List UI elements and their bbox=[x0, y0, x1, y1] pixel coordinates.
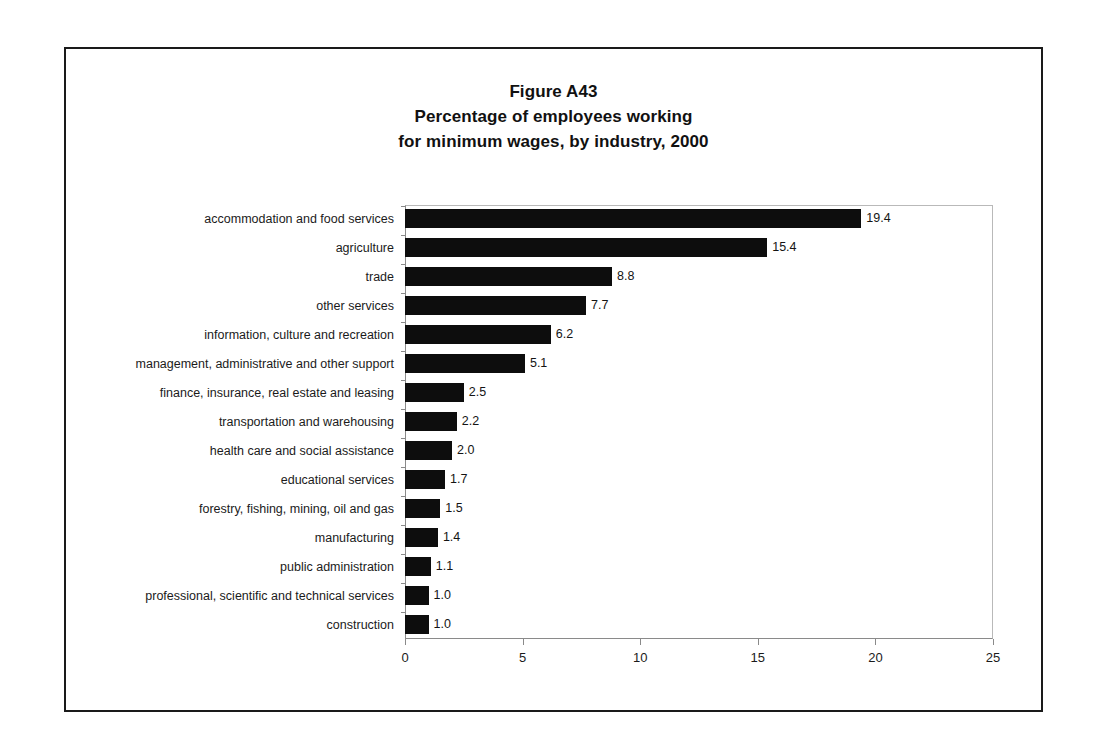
bar-value-label: 6.2 bbox=[551, 325, 573, 344]
category-label: forestry, fishing, mining, oil and gas bbox=[199, 495, 394, 524]
category-label: professional, scientific and technical s… bbox=[145, 582, 394, 611]
bar-value-label: 5.1 bbox=[525, 354, 547, 373]
x-axis-tick bbox=[993, 639, 994, 645]
bar-row: 2.2 bbox=[405, 408, 993, 437]
bar-value-label: 1.0 bbox=[429, 615, 451, 634]
x-axis-tick-label: 15 bbox=[751, 650, 765, 665]
category-label: transportation and warehousing bbox=[219, 408, 394, 437]
bar-row: 8.8 bbox=[405, 263, 993, 292]
bar-value-label: 2.5 bbox=[464, 383, 486, 402]
category-axis-labels: accommodation and food servicesagricultu… bbox=[66, 205, 400, 639]
category-label: trade bbox=[366, 263, 395, 292]
category-label: manufacturing bbox=[315, 524, 394, 553]
bar bbox=[405, 528, 438, 547]
bar-row: 19.4 bbox=[405, 205, 993, 234]
bar bbox=[405, 412, 457, 431]
bar-row: 2.0 bbox=[405, 437, 993, 466]
value-axis: 0510152025 bbox=[405, 639, 993, 699]
x-axis-tick bbox=[758, 639, 759, 645]
bar-value-label: 2.0 bbox=[452, 441, 474, 460]
bar-value-label: 1.0 bbox=[429, 586, 451, 605]
category-label: health care and social assistance bbox=[210, 437, 394, 466]
bar bbox=[405, 354, 525, 373]
category-label: other services bbox=[316, 292, 394, 321]
x-axis-tick-label: 5 bbox=[519, 650, 526, 665]
bar-row: 1.0 bbox=[405, 582, 993, 611]
bar bbox=[405, 296, 586, 315]
bar bbox=[405, 586, 429, 605]
x-axis-tick-label: 10 bbox=[633, 650, 647, 665]
bar-value-label: 8.8 bbox=[612, 267, 634, 286]
bar-row: 5.1 bbox=[405, 350, 993, 379]
bar-row: 1.1 bbox=[405, 553, 993, 582]
bar-row: 1.4 bbox=[405, 524, 993, 553]
bar-row: 6.2 bbox=[405, 321, 993, 350]
bar bbox=[405, 325, 551, 344]
bar-value-label: 1.7 bbox=[445, 470, 467, 489]
bar-row: 7.7 bbox=[405, 292, 993, 321]
bar-row: 1.5 bbox=[405, 495, 993, 524]
bar bbox=[405, 499, 440, 518]
bar-value-label: 2.2 bbox=[457, 412, 479, 431]
bar-chart: accommodation and food servicesagricultu… bbox=[66, 49, 1045, 714]
x-axis-tick bbox=[640, 639, 641, 645]
category-label: management, administrative and other sup… bbox=[136, 350, 394, 379]
bar-value-label: 1.4 bbox=[438, 528, 460, 547]
figure-frame: Figure A43 Percentage of employees worki… bbox=[64, 47, 1043, 712]
category-label: educational services bbox=[281, 466, 394, 495]
x-axis-tick-label: 25 bbox=[986, 650, 1000, 665]
category-label: public administration bbox=[280, 553, 394, 582]
x-axis-tick bbox=[875, 639, 876, 645]
bar bbox=[405, 441, 452, 460]
bar-value-label: 15.4 bbox=[767, 238, 796, 257]
bar-value-label: 7.7 bbox=[586, 296, 608, 315]
bar bbox=[405, 238, 767, 257]
category-label: agriculture bbox=[336, 234, 394, 263]
x-axis-tick-label: 0 bbox=[401, 650, 408, 665]
category-label: finance, insurance, real estate and leas… bbox=[160, 379, 394, 408]
bar-value-label: 1.1 bbox=[431, 557, 453, 576]
bar-series: 19.415.48.87.76.25.12.52.22.01.71.51.41.… bbox=[405, 205, 993, 639]
x-axis-tick bbox=[405, 639, 406, 645]
bar-row: 1.0 bbox=[405, 611, 993, 640]
bar bbox=[405, 470, 445, 489]
bar-value-label: 19.4 bbox=[861, 209, 890, 228]
x-axis-tick-label: 20 bbox=[868, 650, 882, 665]
bar bbox=[405, 267, 612, 286]
bar bbox=[405, 615, 429, 634]
bar-row: 1.7 bbox=[405, 466, 993, 495]
category-label: construction bbox=[327, 611, 394, 640]
category-label: accommodation and food services bbox=[204, 205, 394, 234]
bar-row: 15.4 bbox=[405, 234, 993, 263]
category-label: information, culture and recreation bbox=[204, 321, 394, 350]
bar-value-label: 1.5 bbox=[440, 499, 462, 518]
bar bbox=[405, 557, 431, 576]
bar bbox=[405, 209, 861, 228]
x-axis-tick bbox=[523, 639, 524, 645]
bar-row: 2.5 bbox=[405, 379, 993, 408]
bar bbox=[405, 383, 464, 402]
